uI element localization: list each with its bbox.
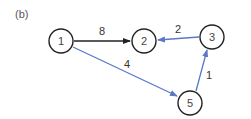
edge-weight-5-3: 1 xyxy=(206,69,212,81)
node-5: 5 xyxy=(178,91,202,115)
edge-3-to-2: 2 xyxy=(158,23,199,40)
edge-1-to-5: 4 xyxy=(73,47,177,96)
node-label-3: 3 xyxy=(209,31,215,43)
graph-diagram: 8 2 4 1 1 2 3 5 xyxy=(0,0,251,119)
edge-1-to-2: 8 xyxy=(74,25,130,41)
node-label-2: 2 xyxy=(141,35,147,47)
edge-5-to-3: 1 xyxy=(196,50,212,91)
node-2: 2 xyxy=(132,29,156,53)
node-label-1: 1 xyxy=(58,35,64,47)
node-label-5: 5 xyxy=(187,97,193,109)
node-1: 1 xyxy=(49,29,73,53)
edge-weight-3-2: 2 xyxy=(175,23,181,35)
edge-weight-1-5: 4 xyxy=(124,58,130,70)
edge-weight-1-2: 8 xyxy=(99,25,105,37)
node-3: 3 xyxy=(200,25,224,49)
